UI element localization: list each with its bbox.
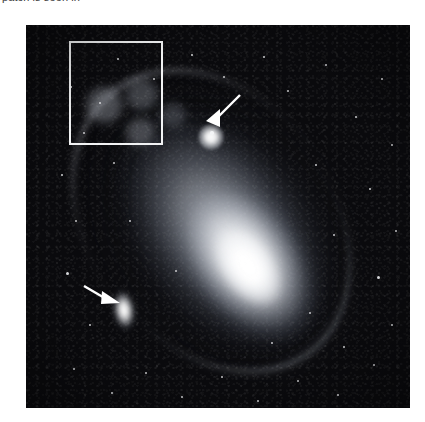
region-of-interest-box (69, 41, 163, 145)
m32-companion-galaxy (198, 124, 224, 150)
andromeda-galaxy-photo (26, 25, 410, 408)
clipped-caption-text: patch is seen in (2, 0, 80, 3)
clipped-caption-sliver: patch is seen in (0, 0, 425, 9)
